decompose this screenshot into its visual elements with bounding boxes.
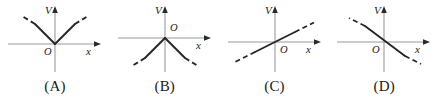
x-axis-label: x: [85, 45, 91, 57]
x-axis-arrowhead-icon: [423, 39, 430, 45]
option-caption-a: (A): [0, 78, 110, 95]
lower-left-ray-dashed: [132, 58, 145, 66]
x-axis-arrowhead-icon: [94, 41, 101, 47]
v-axis-arrowhead-icon: [162, 6, 168, 13]
lower-right-ray-dashed: [185, 58, 198, 66]
option-panel-c[interactable]: V x O (C): [220, 0, 330, 107]
x-axis-label: x: [195, 39, 201, 51]
v-axis-arrowhead-icon: [52, 6, 58, 13]
upper-right-ray-solid: [55, 24, 75, 44]
origin-label: O: [372, 44, 380, 55]
v-axis-label: V: [45, 4, 53, 16]
lower-left-ray-solid: [145, 38, 165, 58]
diagram-c: V x O: [220, 0, 330, 80]
upper-left-ray-dashed: [22, 16, 35, 24]
negative-slope-line-solid: [365, 26, 405, 56]
lower-right-ray-solid: [165, 38, 185, 58]
diagram-b: V x O: [110, 0, 220, 80]
positive-slope-line-dashed-right: [295, 23, 314, 33]
option-caption-b: (B): [110, 78, 220, 95]
x-axis-label: x: [305, 43, 311, 55]
v-axis-arrowhead-icon: [381, 6, 387, 13]
v-axis-label: V: [155, 4, 163, 16]
diagram-a: V x O: [0, 0, 110, 80]
option-caption-d: (D): [329, 78, 439, 95]
negative-slope-line-dashed-left: [349, 18, 365, 26]
x-axis-label: x: [414, 43, 420, 55]
v-axis-label: V: [265, 4, 273, 16]
option-panel-a[interactable]: V x O (A): [0, 0, 110, 107]
origin-label: O: [170, 22, 178, 33]
negative-slope-line-dashed-right: [405, 56, 421, 64]
x-axis-arrowhead-icon: [204, 35, 211, 41]
v-axis-label: V: [374, 4, 382, 16]
diagram-d: V x O: [329, 0, 439, 80]
upper-right-ray-dashed: [75, 16, 88, 24]
origin-label: O: [280, 44, 288, 55]
multiple-choice-graph-figure: V x O (A) V x O (B): [0, 0, 439, 107]
option-caption-c: (C): [220, 78, 330, 95]
positive-slope-line-dashed-left: [234, 52, 255, 63]
option-panel-b[interactable]: V x O (B): [110, 0, 220, 107]
x-axis-arrowhead-icon: [314, 39, 321, 45]
v-axis-arrowhead-icon: [272, 6, 278, 13]
upper-left-ray-solid: [35, 24, 55, 44]
origin-label: O: [44, 46, 52, 57]
option-panel-d[interactable]: V x O (D): [329, 0, 439, 107]
